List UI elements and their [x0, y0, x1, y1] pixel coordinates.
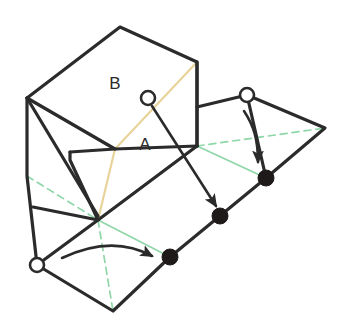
open-marker-face	[141, 91, 155, 105]
open-marker-bottom-left	[30, 258, 44, 272]
folding-net-diagram: BA	[0, 0, 342, 333]
label-b: B	[109, 74, 120, 93]
open-marker-top-right	[240, 88, 254, 102]
filled-marker-upper	[258, 170, 274, 186]
label-a: A	[139, 135, 151, 154]
filled-marker-middle	[212, 208, 228, 224]
figure-container: BA	[0, 0, 342, 333]
filled-marker-lower	[162, 249, 178, 265]
